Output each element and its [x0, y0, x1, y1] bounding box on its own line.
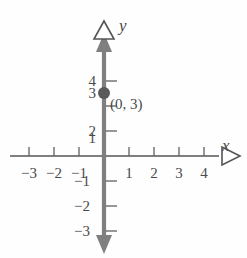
filled-dot-icon [98, 87, 110, 99]
graph-canvas [0, 0, 247, 258]
x-axis-label: x [222, 137, 230, 154]
y-tick-label--3: −3 [64, 224, 90, 239]
x-axis-ticks [29, 147, 204, 156]
x-tick-label-3: 3 [167, 166, 191, 181]
arrowhead-down-icon [96, 235, 112, 254]
y-axis-label: y [119, 17, 127, 34]
x-tick-label-4: 4 [192, 166, 216, 181]
y-tick-label-3: 3 [70, 86, 96, 101]
triangle-up-outline-icon [94, 21, 114, 39]
y-tick-label--2: −2 [64, 199, 90, 214]
x-tick-label-1: 1 [117, 166, 141, 181]
y-tick-label--1: −1 [64, 174, 90, 189]
x-tick-label--3: −3 [17, 166, 41, 181]
y-tick-label-1: 1 [70, 131, 96, 146]
x-tick-label-2: 2 [142, 166, 166, 181]
coordinate-plane-graph: y x −3 −2 −1 1 2 3 4 4 3 2 1 −1 −2 −3 (0… [0, 0, 247, 258]
x-tick-label--2: −2 [42, 166, 66, 181]
point-coordinate-label: (0, 3) [110, 97, 143, 112]
